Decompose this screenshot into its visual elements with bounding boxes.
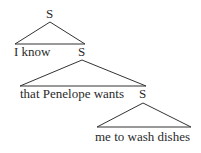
node-s-embedded-1: S (78, 45, 85, 58)
triangle-3 (97, 103, 191, 127)
node-that-penelope-wants: that Penelope wants (20, 87, 124, 100)
node-s-embedded-2: S (139, 87, 146, 100)
triangle-2 (20, 60, 146, 86)
node-s-root: S (46, 7, 53, 20)
node-i-know: I know (14, 45, 50, 58)
node-me-to-wash-dishes: me to wash dishes (95, 130, 190, 143)
triangle-1 (15, 22, 85, 44)
